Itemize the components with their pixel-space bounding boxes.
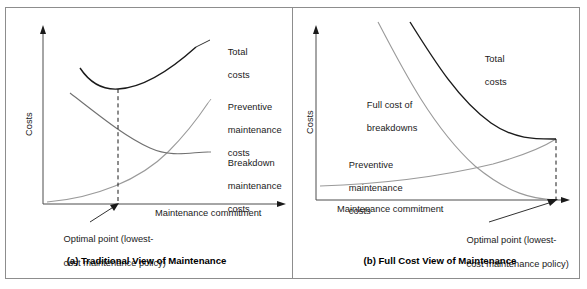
curve-label-line: maintenance [228, 125, 282, 135]
panel-caption-b: (b) Full Cost View of Maintenance [293, 255, 587, 266]
panel-full-cost-view: Costs Maintenance commitment Total costs… [293, 0, 587, 289]
curve-label-total-costs-a: Total costs [212, 35, 250, 93]
leader-total-costs-a [196, 40, 210, 47]
optimal-point-arrow-b [489, 199, 558, 222]
annotation-line: Optimal point (lowest- [467, 235, 557, 245]
curve-label-full-cost-of-breakdowns-b: Full cost of breakdowns [351, 88, 417, 146]
curve-label-line: Breakdown [228, 158, 275, 168]
curve-label-line: maintenance [349, 183, 403, 193]
curve-label-line: breakdowns [367, 123, 418, 133]
optimal-point-arrow-a [90, 203, 119, 222]
optimal-point-annotation-b: Optimal point (lowest- cost maintenance … [451, 222, 569, 282]
curve-breakdown-maintenance-costs-a [70, 93, 208, 154]
panel-traditional-view: Costs Maintenance commitment Total costs… [0, 0, 293, 289]
optimal-point-annotation-a: Optimal point (lowest- cost maintenance … [48, 221, 166, 281]
leader-preventive-a [208, 99, 211, 103]
curve-label-breakdown-maintenance-costs-a: Breakdown maintenance costs [212, 146, 282, 227]
annotation-line: Optimal point (lowest- [64, 234, 154, 244]
y-axis-label-a: Costs [24, 112, 34, 136]
curve-label-line: costs [228, 70, 250, 80]
curve-preventive-maintenance-costs-a [47, 103, 208, 202]
curve-label-line: Total [485, 54, 505, 64]
curve-label-line: Preventive [349, 160, 393, 170]
curve-label-line: costs [228, 204, 250, 214]
y-axis-a [40, 25, 46, 204]
panel-caption-a: (a) Traditional View of Maintenance [0, 255, 293, 266]
curve-label-total-costs-b: Total costs [469, 42, 507, 100]
curve-label-preventive-maintenance-costs-b: Preventive maintenance costs [333, 148, 403, 229]
curve-label-line: costs [349, 206, 371, 216]
curve-label-line: Full cost of [367, 100, 413, 110]
curve-label-line: Preventive [228, 102, 272, 112]
curve-total-costs-a [80, 47, 196, 89]
curve-label-line: maintenance [228, 181, 282, 191]
y-axis-label-b: Costs [305, 110, 315, 134]
maintenance-cost-figure: Costs Maintenance commitment Total costs… [0, 0, 587, 289]
curve-label-line: costs [485, 77, 507, 87]
curve-label-line: Total [228, 47, 248, 57]
